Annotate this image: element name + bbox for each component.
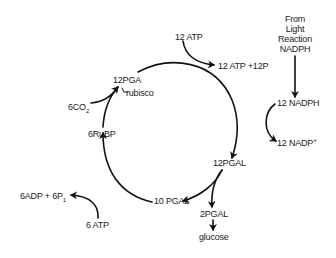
arrow-co2-to-pga <box>91 87 118 103</box>
arrow-pgal10-to-rubp <box>103 133 152 202</box>
co2-subscript: 2 <box>86 108 89 114</box>
label-12atp-out: 12 ATP +12P <box>218 61 268 71</box>
label-rubisco: rubisco <box>126 88 154 98</box>
arrow-atp-in-to-out <box>183 41 214 65</box>
label-light-reaction: From Light Reaction NADPH <box>275 14 315 54</box>
label-12nadph: 12 NADPH <box>277 98 319 108</box>
arrow-pgal12-to-pgal2 <box>212 170 222 207</box>
light-line-2: Light <box>275 24 315 34</box>
adp-text: 6ADP + 6P <box>20 191 63 201</box>
label-10pgal: 10 PGAL <box>154 196 189 206</box>
adp-subscript: 1 <box>63 197 66 203</box>
label-2pgal: 2PGAL <box>200 209 228 219</box>
label-6atp: 6 ATP <box>86 220 109 230</box>
light-line-1: From <box>275 14 315 24</box>
light-line-4: NADPH <box>275 44 315 54</box>
label-glucose: glucose <box>199 232 229 242</box>
label-6co2: 6CO2 <box>68 102 89 112</box>
light-line-3: Reaction <box>275 34 315 44</box>
arrow-atp6-to-adp <box>71 195 98 218</box>
label-6adp: 6ADP + 6P1 <box>20 191 66 201</box>
label-12nadp: 12 NADP+ <box>277 138 316 148</box>
calvin-cycle-diagram: 12PGA rubisco 6CO2 6RuBP 12 ATP 12 ATP +… <box>0 0 336 258</box>
cycle-arc-pga-to-pgal <box>138 63 237 158</box>
label-12pga: 12PGA <box>113 75 141 85</box>
co2-text: 6CO <box>68 102 86 112</box>
arrow-nadph-to-nadp <box>266 104 276 141</box>
label-12pgal: 12PGAL <box>213 158 246 168</box>
arrow-rubp-to-pga <box>103 87 118 127</box>
nadp-superscript: + <box>313 137 316 143</box>
label-12atp-in: 12 ATP <box>175 32 203 42</box>
nadp-text: 12 NADP <box>277 138 313 148</box>
label-6rubp: 6RuBP <box>88 129 116 139</box>
